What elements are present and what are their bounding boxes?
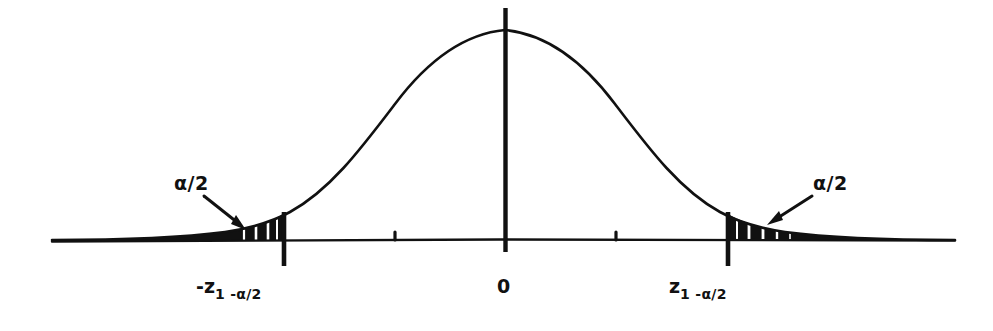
alpha-over-two-label-left: α/2 (174, 172, 209, 194)
left-critical-value-label: -z1 -α/2 (196, 275, 262, 302)
right-critical-value-lead: z (669, 275, 680, 297)
normal-distribution-figure: α/2 α/2 -z1 -α/2 0 z1 -α/2 (0, 0, 993, 331)
left-critical-value-lead: -z (196, 275, 215, 297)
right-critical-value-label: z1 -α/2 (669, 275, 727, 302)
arrow-down-left-icon (767, 196, 812, 225)
right-critical-value-subscript: 1 -α/2 (680, 286, 727, 302)
center-zero-label: 0 (497, 275, 510, 297)
arrow-down-right-icon (204, 196, 246, 230)
left-critical-value-subscript: 1 -α/2 (215, 286, 262, 302)
alpha-over-two-label-right: α/2 (813, 172, 848, 194)
